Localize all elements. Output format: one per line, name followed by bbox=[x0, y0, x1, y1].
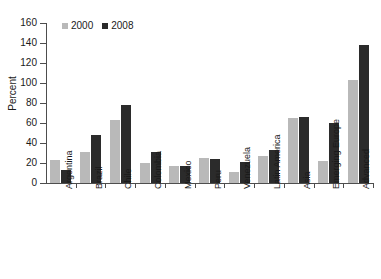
x-tick bbox=[135, 183, 136, 188]
bar-2000-peru[interactable] bbox=[199, 158, 209, 183]
bar-2000-venezuela[interactable] bbox=[229, 172, 239, 183]
y-tick-label: 160 bbox=[0, 17, 37, 28]
bar-2000-advanced[interactable] bbox=[348, 80, 358, 183]
bar-chart-figure: Percent 2000 2008 020406080100120140160 … bbox=[0, 0, 381, 279]
y-axis-title: Percent bbox=[7, 64, 18, 124]
bar-2000-argentina[interactable] bbox=[50, 160, 60, 183]
x-tick-label-brazil: Brazil bbox=[95, 166, 104, 189]
x-tick bbox=[373, 183, 374, 188]
bar-2000-colombia[interactable] bbox=[140, 163, 150, 183]
y-tick-label: 20 bbox=[0, 157, 37, 168]
x-tick bbox=[165, 183, 166, 188]
y-tick-label: 80 bbox=[0, 97, 37, 108]
x-tick-label-argentina: Argentina bbox=[65, 150, 74, 189]
x-tick-label-emerging-europe: Emerging Europe bbox=[332, 119, 341, 189]
bar-2000-chile[interactable] bbox=[110, 120, 120, 183]
x-tick-label-asia: Asia bbox=[303, 171, 312, 189]
bar-2000-brazil[interactable] bbox=[80, 152, 90, 183]
plot-area bbox=[46, 23, 373, 183]
x-tick bbox=[195, 183, 196, 188]
y-tick-label: 60 bbox=[0, 117, 37, 128]
x-tick-label-colombia: Colombia bbox=[154, 151, 163, 189]
bar-2000-emerging-europe[interactable] bbox=[318, 161, 328, 183]
x-tick bbox=[76, 183, 77, 188]
y-tick-label: 100 bbox=[0, 77, 37, 88]
x-tick bbox=[224, 183, 225, 188]
x-tick-label-peru: Peru bbox=[214, 170, 223, 189]
y-tick-label: 40 bbox=[0, 137, 37, 148]
x-tick bbox=[314, 183, 315, 188]
x-tick bbox=[105, 183, 106, 188]
x-tick-label-latin-america: Latin America bbox=[273, 134, 282, 189]
bar-2000-mexico[interactable] bbox=[169, 166, 179, 183]
x-tick bbox=[284, 183, 285, 188]
x-tick-label-chile: Chile bbox=[124, 168, 133, 189]
x-tick bbox=[343, 183, 344, 188]
bar-2000-latin-america[interactable] bbox=[258, 156, 268, 183]
x-tick-label-advanced: Advanced bbox=[362, 149, 371, 189]
x-tick-label-venezuela: Venezuela bbox=[243, 147, 252, 189]
x-tick-label-mexico: Mexico bbox=[184, 160, 193, 189]
y-tick-label: 0 bbox=[0, 177, 37, 188]
y-tick bbox=[40, 183, 46, 184]
y-tick-label: 120 bbox=[0, 57, 37, 68]
x-tick bbox=[254, 183, 255, 188]
bar-2000-asia[interactable] bbox=[288, 118, 298, 183]
y-tick-label: 140 bbox=[0, 37, 37, 48]
